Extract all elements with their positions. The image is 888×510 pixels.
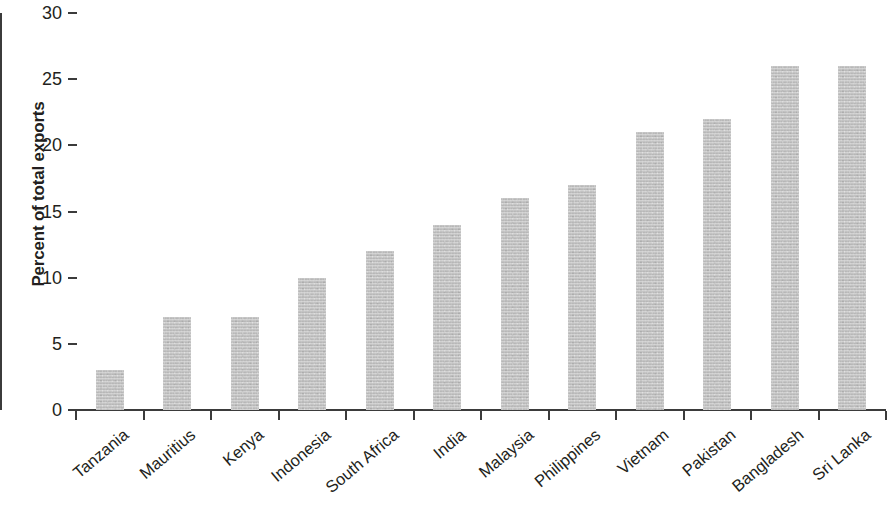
bar [96, 370, 124, 410]
y-tick-label: 10 [18, 269, 62, 287]
y-tick-label: 15 [18, 203, 62, 221]
bar [771, 66, 799, 410]
bar [366, 251, 394, 410]
bar [838, 66, 866, 410]
y-tick-label: 20 [18, 136, 62, 154]
y-tick-label: 5 [18, 335, 62, 353]
bar-chart: Percent of total exports 051015202530 Ta… [0, 0, 888, 510]
bar [703, 119, 731, 410]
y-axis-line [0, 13, 2, 410]
bar [231, 317, 259, 410]
bar [636, 132, 664, 410]
y-tick-label: 25 [18, 70, 62, 88]
bar [433, 225, 461, 410]
y-tick-label: 30 [18, 4, 62, 22]
bar [568, 185, 596, 410]
bar [298, 278, 326, 410]
bar [163, 317, 191, 410]
bars-container [76, 0, 886, 410]
y-tick-label: 0 [18, 401, 62, 419]
bar [501, 198, 529, 410]
x-axis-labels: TanzaniaMauritiusKenyaIndonesiaSouth Afr… [76, 410, 886, 510]
